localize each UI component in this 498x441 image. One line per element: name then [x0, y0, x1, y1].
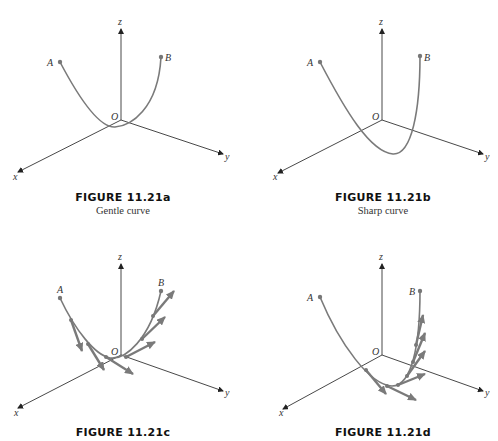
panel-a-diagram: z x y O A B [12, 16, 230, 182]
point-b-label: B [165, 52, 171, 63]
x-label: x [13, 407, 19, 418]
caption-subtitle: Gentle curve [23, 205, 223, 216]
origin-label: O [111, 111, 118, 122]
x-axis [283, 355, 382, 409]
point-a [318, 295, 322, 299]
caption-c: FIGURE 11.21c [23, 426, 223, 439]
y-axis [121, 355, 223, 391]
caption-title: FIGURE 11.21d [283, 426, 483, 439]
point-a [318, 60, 322, 64]
y-label: y [484, 387, 490, 398]
caption-b: FIGURE 11.21b Sharp curve [283, 191, 483, 216]
z-label: z [117, 251, 122, 262]
origin-label: O [111, 346, 118, 357]
x-axis [18, 355, 121, 408]
y-label: y [484, 151, 490, 162]
point-b [418, 289, 422, 293]
panel-d-diagram: z x y O A B [278, 251, 490, 418]
panel-b-diagram: z x y O A B [272, 16, 490, 182]
point-a [58, 296, 62, 300]
point-b-label: B [158, 277, 164, 288]
caption-d: FIGURE 11.21d [283, 426, 483, 439]
z-label: z [117, 16, 122, 27]
point-b [159, 55, 163, 59]
point-b [159, 289, 163, 293]
caption-title: FIGURE 11.21a [23, 191, 223, 204]
x-label: x [12, 171, 18, 182]
caption-subtitle: Sharp curve [283, 205, 483, 216]
y-label: y [224, 151, 230, 162]
z-label: z [378, 16, 383, 27]
point-b-label: B [409, 286, 415, 297]
point-a-label: A [46, 57, 54, 68]
x-label: x [278, 407, 284, 418]
figure-canvas: z x y O A B z x y O A B [0, 0, 498, 441]
point-a-label: A [306, 57, 314, 68]
x-label: x [272, 171, 278, 182]
sharp-curve [320, 56, 420, 154]
origin-label: O [372, 346, 379, 357]
y-axis [121, 120, 223, 154]
caption-title: FIGURE 11.21c [23, 426, 223, 439]
point-a-label: A [306, 292, 314, 303]
point-a-label: A [56, 284, 64, 295]
unit-tangent-vectors [364, 315, 425, 400]
z-label: z [378, 251, 383, 262]
panel-c-diagram: z x y O A B [13, 251, 230, 418]
y-label: y [224, 387, 230, 398]
sharp-curve-with-tangents [320, 291, 420, 386]
x-axis [278, 120, 382, 173]
point-a [58, 60, 62, 64]
origin-label: O [372, 111, 379, 122]
point-b-label: B [424, 52, 430, 63]
x-axis [18, 120, 121, 172]
caption-a: FIGURE 11.21a Gentle curve [23, 191, 223, 216]
point-b [418, 54, 422, 58]
y-axis [382, 120, 483, 154]
caption-title: FIGURE 11.21b [283, 191, 483, 204]
